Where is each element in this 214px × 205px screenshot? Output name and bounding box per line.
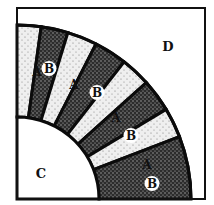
wedge-label-b: B [92, 86, 102, 100]
region-label-c: C [36, 166, 46, 181]
quilt-diagram: ABABABAB C D [0, 0, 214, 205]
wedge-label-a: A [68, 78, 79, 92]
wedge-label-b: B [44, 62, 54, 76]
wedge-label-a: A [31, 65, 42, 79]
wedge-label-a: A [110, 111, 121, 125]
wedge-label-a: A [141, 158, 152, 172]
wedge-label-b: B [147, 177, 157, 191]
wedge-label-b: B [126, 129, 136, 143]
region-label-d: D [162, 39, 173, 54]
